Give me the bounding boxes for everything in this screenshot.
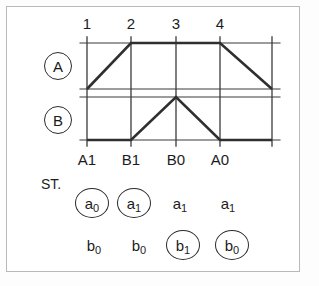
- state-sub-b-4: 0: [233, 244, 239, 256]
- st-label: ST.: [41, 177, 61, 191]
- state-sub-b-3: 1: [184, 244, 190, 256]
- phase-label-a1: A1: [78, 152, 96, 167]
- waveform-signal-b: [87, 97, 272, 140]
- state-sub-b-2: 0: [140, 244, 146, 256]
- tick-number-1: 1: [83, 16, 91, 31]
- tick-number-2: 2: [127, 16, 135, 31]
- timing-diagram-canvas: [0, 0, 319, 286]
- state-cell-b-2: b0: [132, 238, 146, 253]
- state-cell-a-2: a1: [127, 196, 141, 211]
- state-cell-a-3: a1: [173, 196, 187, 211]
- phase-label-b0: B0: [167, 152, 185, 167]
- row-badge-b: B: [44, 106, 72, 134]
- tick-number-4: 4: [216, 16, 224, 31]
- phase-label-b1: B1: [122, 152, 140, 167]
- figure-root: 1 2 3 4 A B A1 B1 B0 A0 ST. a0 a1 a1 a1 …: [0, 0, 319, 286]
- state-cell-a-1: a0: [85, 196, 99, 211]
- state-cell-b-3: b1: [176, 238, 190, 253]
- row-badge-a: A: [44, 52, 72, 80]
- waveform-signal-a: [87, 43, 272, 89]
- state-sub-b-1: 0: [95, 244, 101, 256]
- tick-number-3: 3: [172, 16, 180, 31]
- row-badge-b-label: B: [53, 112, 63, 129]
- state-sub-a-3: 1: [181, 202, 187, 214]
- state-sub-a-1: 0: [93, 202, 99, 214]
- phase-label-a0: A0: [211, 152, 229, 167]
- state-cell-a-4: a1: [221, 196, 235, 211]
- state-sub-a-4: 1: [229, 202, 235, 214]
- row-badge-a-label: A: [53, 58, 63, 75]
- state-cell-b-1: b0: [87, 238, 101, 253]
- state-sub-a-2: 1: [135, 202, 141, 214]
- state-cell-b-4: b0: [225, 238, 239, 253]
